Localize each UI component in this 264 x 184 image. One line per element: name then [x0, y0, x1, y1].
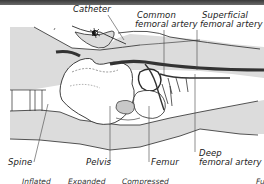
label-common-femoral-artery-line2: femoral artery: [135, 20, 198, 30]
caption-inflated: Inflated: [22, 177, 51, 184]
label-spine: Spine: [8, 158, 32, 168]
label-superficial-femoral-artery-line2: femoral artery: [200, 20, 263, 30]
upper-tissue: [10, 27, 264, 90]
caption-fu: Fu: [256, 177, 264, 184]
pubic-bone: [116, 100, 134, 114]
spine-vertebrae: [10, 90, 46, 111]
label-pelvis: Pelvis: [86, 158, 111, 168]
caption-compressed: Compressed: [122, 177, 169, 184]
label-catheter: Catheter: [73, 5, 111, 15]
femur-bone: [134, 90, 166, 118]
label-femur: Femur: [151, 158, 179, 168]
caption-expanded: Expanded: [68, 177, 105, 184]
label-deep-femoral-artery-line2: femoral artery: [199, 158, 262, 168]
pelvis-bone: [60, 58, 134, 124]
